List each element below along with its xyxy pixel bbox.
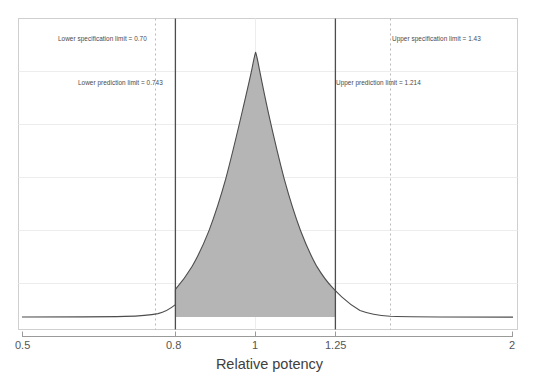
upper-specification-limit-label: Upper specification limit = 1.43 <box>392 35 481 42</box>
chart-canvas: Lower specification limit = 0.70 Upper s… <box>0 0 539 380</box>
x-tick-label-4: 2 <box>509 339 515 351</box>
x-tick-label-0: 0.5 <box>15 339 30 351</box>
upper-prediction-limit-label: Upper prediction limit = 1.214 <box>336 79 421 86</box>
lower-specification-limit-label: Lower specification limit = 0.70 <box>58 35 147 42</box>
lower-prediction-limit-label: Lower prediction limit = 0.743 <box>78 79 163 86</box>
x-tick-label-3: 1.25 <box>325 339 346 351</box>
x-tick-label-1: 0.8 <box>166 339 181 351</box>
density-plot <box>0 0 539 380</box>
x-axis-title: Relative potency <box>0 356 539 372</box>
x-axis <box>22 332 513 337</box>
x-tick-label-2: 1 <box>252 339 258 351</box>
